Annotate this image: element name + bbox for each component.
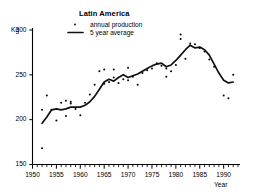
data-point xyxy=(51,109,53,111)
data-point xyxy=(199,47,201,49)
data-point xyxy=(98,70,100,72)
x-tick-label: 1975 xyxy=(141,172,163,179)
data-point xyxy=(184,58,186,60)
x-tick-label: 1990 xyxy=(213,172,235,179)
chart-title: Latin America xyxy=(79,10,130,18)
x-axis-ticks xyxy=(33,165,239,169)
data-point xyxy=(79,114,81,116)
data-point xyxy=(137,84,139,86)
data-point xyxy=(151,68,153,70)
data-point xyxy=(189,42,191,44)
annual-production-points xyxy=(41,33,234,149)
data-point xyxy=(65,100,67,102)
data-point xyxy=(165,68,167,70)
data-point xyxy=(156,62,158,64)
data-point xyxy=(165,76,167,78)
data-point xyxy=(103,68,105,70)
chart-container: Latin America annual production 5 year a… xyxy=(0,0,256,195)
data-point xyxy=(89,94,91,96)
data-point xyxy=(170,70,172,72)
data-point xyxy=(141,72,143,74)
x-tick-label: 1960 xyxy=(69,172,91,179)
data-point xyxy=(204,51,206,53)
data-point xyxy=(46,94,48,96)
x-tick-label: 1970 xyxy=(117,172,139,179)
data-point xyxy=(60,102,62,104)
x-tick-label: 1955 xyxy=(45,172,67,179)
data-point xyxy=(208,59,210,61)
data-point xyxy=(194,43,196,45)
data-point xyxy=(65,115,67,117)
data-point xyxy=(70,103,72,105)
data-point xyxy=(180,33,182,35)
data-point xyxy=(232,74,234,76)
data-point xyxy=(108,81,110,83)
legend-dot-marker xyxy=(74,24,76,26)
data-point xyxy=(113,77,115,79)
data-point xyxy=(223,94,225,96)
data-point xyxy=(161,65,163,67)
data-point xyxy=(75,108,77,110)
legend-item-annual-production: annual production xyxy=(90,22,142,29)
x-axis-title: Year xyxy=(214,182,227,189)
data-point xyxy=(227,97,229,99)
data-point xyxy=(84,102,86,104)
data-point xyxy=(146,69,148,71)
y-tick-label: 300 xyxy=(9,27,27,34)
x-tick-label: 1985 xyxy=(189,172,211,179)
x-tick-label: 1950 xyxy=(22,172,44,179)
data-point xyxy=(175,64,177,66)
data-point xyxy=(103,83,105,85)
data-point xyxy=(180,38,182,40)
data-point xyxy=(122,78,124,80)
data-point xyxy=(127,67,129,69)
y-tick-label: 200 xyxy=(9,116,27,123)
data-point xyxy=(70,101,72,103)
data-point xyxy=(127,79,129,81)
data-point xyxy=(94,84,96,86)
legend-item-five-year-average: 5 year average xyxy=(90,30,134,37)
y-tick-label: 150 xyxy=(9,161,27,168)
data-point xyxy=(55,120,57,122)
y-tick-label: 250 xyxy=(9,72,27,79)
data-point xyxy=(132,76,134,78)
data-point xyxy=(118,82,120,84)
data-point xyxy=(113,68,115,70)
data-point xyxy=(41,147,43,149)
x-tick-label: 1980 xyxy=(165,172,187,179)
data-point xyxy=(213,66,215,68)
data-point xyxy=(41,109,43,111)
x-tick-label: 1965 xyxy=(93,172,115,179)
